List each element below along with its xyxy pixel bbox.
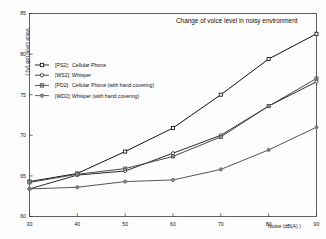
data-point-square bbox=[40, 63, 43, 66]
data-point-circle bbox=[171, 152, 174, 155]
data-point-circle-cross bbox=[76, 186, 79, 189]
voice-level-line-chart: 606570758085 30405060708090 Noise (dB(A)… bbox=[0, 0, 326, 239]
data-point-circle-cross bbox=[124, 180, 127, 183]
x-tick-label: 50 bbox=[122, 221, 128, 227]
data-point-circle-cross bbox=[267, 148, 270, 151]
y-tick-label: 85 bbox=[20, 10, 26, 16]
x-tick-label: 90 bbox=[314, 221, 320, 227]
data-point-square-cross bbox=[28, 181, 31, 184]
legend-label: Cellular Phone bbox=[72, 62, 106, 68]
y-tick-label: 65 bbox=[20, 173, 26, 179]
legend-tag: [WS2]: bbox=[55, 72, 71, 78]
data-point-circle-cross bbox=[28, 187, 31, 190]
data-point-square-cross bbox=[315, 77, 318, 80]
legend-tag: [PS2]: bbox=[55, 62, 69, 68]
data-point-square-cross bbox=[124, 167, 127, 170]
data-point-circle-cross bbox=[171, 178, 174, 181]
data-point-square-cross bbox=[171, 155, 174, 158]
data-point-square bbox=[315, 32, 318, 35]
y-axis-title: Voice Level (dB (A) ) bbox=[25, 28, 31, 76]
legend-tag: [WD2]: bbox=[55, 93, 71, 99]
data-point-square-cross bbox=[267, 105, 270, 108]
x-axis-title: Noise (dB(A) ) bbox=[268, 223, 301, 229]
y-tick-label: 75 bbox=[20, 92, 26, 98]
chart-figure: 606570758085 30405060708090 Noise (dB(A)… bbox=[0, 0, 326, 239]
data-point-square bbox=[267, 57, 270, 60]
data-point-circle bbox=[40, 74, 43, 77]
chart-title-text: Change of voice level in noisy environme… bbox=[176, 17, 298, 25]
x-tick-label: 40 bbox=[74, 221, 80, 227]
x-tick-label: 70 bbox=[218, 221, 224, 227]
data-point-square-cross bbox=[219, 135, 222, 138]
data-point-circle bbox=[315, 80, 318, 83]
legend-label: Cellular Phone (with hand covering) bbox=[72, 82, 154, 88]
data-point-circle-cross bbox=[219, 168, 222, 171]
x-tick-label: 30 bbox=[27, 221, 33, 227]
data-point-square bbox=[171, 126, 174, 129]
x-tick-label: 60 bbox=[170, 221, 176, 227]
y-tick-label: 70 bbox=[20, 132, 26, 138]
legend-label: Whisper bbox=[72, 72, 91, 78]
figure-background bbox=[0, 0, 326, 239]
legend-label: Whisper (with hand covering) bbox=[72, 93, 139, 99]
data-point-square bbox=[219, 93, 222, 96]
data-point-circle-cross bbox=[40, 94, 43, 97]
data-point-square bbox=[124, 150, 127, 153]
legend-tag: [PD2]: bbox=[55, 82, 69, 88]
y-tick-label: 60 bbox=[20, 213, 26, 219]
data-point-square-cross bbox=[76, 173, 79, 176]
data-point-circle-cross bbox=[315, 126, 318, 129]
data-point-square-cross bbox=[40, 84, 43, 87]
